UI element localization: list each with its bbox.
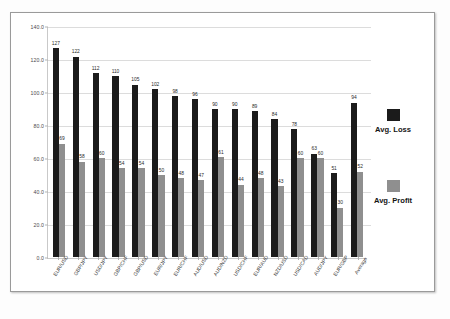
x-tick-mark	[198, 257, 199, 260]
x-axis-cell: USD/JPY	[88, 261, 108, 309]
bar-avg-profit: 61	[218, 157, 224, 257]
bar-group: 5130	[327, 27, 347, 257]
bar-avg-profit: 48	[178, 178, 184, 257]
bar-group: 8443	[268, 27, 288, 257]
legend-label-avg-profit: Avg. Profit	[362, 196, 424, 205]
bar-avg-profit: 43	[278, 186, 284, 257]
bar-value-label: 44	[238, 178, 243, 183]
y-tick-mark	[45, 60, 48, 61]
x-tick-mark	[338, 257, 339, 260]
x-axis-cell: AUD/USD	[188, 261, 208, 309]
x-tick-mark	[118, 257, 119, 260]
bar-value-label: 47	[198, 174, 203, 179]
y-tick-mark	[45, 126, 48, 127]
bar-avg-profit: 30	[337, 208, 343, 257]
bar-value-label: 43	[278, 180, 283, 185]
y-tick-mark	[45, 192, 48, 193]
x-axis-labels: EUR/USDGBP/JPYUSD/JPYGBP/CHFGBP/USDEUR/J…	[48, 261, 368, 309]
x-axis-cell: GBP/USD	[128, 261, 148, 309]
bar-value-label: 96	[192, 93, 197, 98]
bar-value-label: 54	[119, 162, 124, 167]
bar-group: 9647	[188, 27, 208, 257]
bar-avg-profit: 60	[297, 158, 303, 257]
legend-item-avg-profit: Avg. Profit	[362, 180, 424, 205]
x-axis-cell: Average	[348, 261, 368, 309]
chart-frame: 0.020.040.060.080.0100.0120.0140.0 12769…	[10, 12, 435, 292]
bar-value-label: 60	[99, 152, 104, 157]
legend-item-avg-loss: Avg. Loss	[362, 109, 424, 134]
bar-avg-profit: 60	[317, 158, 323, 257]
x-tick-mark	[178, 257, 179, 260]
bar-value-label: 60	[318, 152, 323, 157]
x-axis-cell: EUR/JPY	[148, 261, 168, 309]
bar-value-label: 58	[79, 155, 84, 160]
bar-value-label: 48	[179, 172, 184, 177]
x-tick-mark	[238, 257, 239, 260]
bar-value-label: 90	[212, 103, 217, 108]
bar-groups: 1276912258112601105410554102509848964790…	[49, 27, 367, 257]
plot-region: 0.020.040.060.080.0100.0120.0140.0 12769…	[47, 27, 367, 259]
bar-value-label: 78	[292, 123, 297, 128]
bar-group: 9044	[228, 27, 248, 257]
bar-value-label: 60	[298, 152, 303, 157]
x-tick-mark	[98, 257, 99, 260]
bar-avg-profit: 47	[198, 180, 204, 257]
bar-value-label: 102	[151, 83, 159, 88]
bar-group: 9848	[168, 27, 188, 257]
y-tick-mark	[45, 27, 48, 28]
bar-value-label: 122	[72, 50, 80, 55]
bar-value-label: 54	[139, 162, 144, 167]
bar-avg-profit: 48	[258, 178, 264, 257]
bar-value-label: 105	[131, 78, 139, 83]
bar-group: 7860	[288, 27, 308, 257]
x-axis-cell: EUR/USD	[48, 261, 68, 309]
x-axis-cell: USD/CHF	[228, 261, 248, 309]
bar-avg-profit: 69	[59, 144, 65, 257]
bar-avg-profit: 54	[119, 168, 125, 257]
bar-avg-profit: 50	[158, 175, 164, 257]
x-tick-mark	[318, 257, 319, 260]
x-tick-mark	[58, 257, 59, 260]
chart-screenshot: 0.020.040.060.080.0100.0120.0140.0 12769…	[0, 0, 450, 319]
bar-value-label: 98	[172, 90, 177, 95]
x-axis-cell: GBP/JPY	[68, 261, 88, 309]
legend-label-avg-loss: Avg. Loss	[362, 125, 424, 134]
x-tick-mark	[358, 257, 359, 260]
bar-value-label: 127	[52, 42, 60, 47]
x-axis-cell: AUD/NZD	[208, 261, 228, 309]
legend-swatch-avg-loss	[387, 109, 400, 121]
x-axis-cell: USD/CAD	[288, 261, 308, 309]
bar-value-label: 51	[331, 167, 336, 172]
bar-avg-profit: 60	[99, 158, 105, 257]
bar-group: 6360	[307, 27, 327, 257]
y-tick-mark	[45, 159, 48, 160]
bar-group: 11054	[109, 27, 129, 257]
bar-value-label: 110	[112, 70, 120, 75]
bar-value-label: 90	[232, 103, 237, 108]
bar-value-label: 112	[92, 67, 100, 72]
chart-legend: Avg. Loss Avg. Profit	[362, 109, 424, 251]
x-tick-mark	[138, 257, 139, 260]
bar-value-label: 61	[218, 151, 223, 156]
x-axis-cell: NZD/USD	[268, 261, 288, 309]
bar-value-label: 50	[159, 169, 164, 174]
bar-group: 12258	[69, 27, 89, 257]
bar-value-label: 94	[351, 96, 356, 101]
bar-value-label: 69	[59, 137, 64, 142]
legend-swatch-avg-profit	[387, 180, 400, 192]
bar-value-label: 30	[338, 201, 343, 206]
bar-avg-profit: 54	[138, 168, 144, 257]
x-axis-cell: GBP/CHF	[108, 261, 128, 309]
bar-group: 11260	[89, 27, 109, 257]
x-tick-mark	[298, 257, 299, 260]
bar-avg-profit: 58	[79, 162, 85, 257]
x-tick-mark	[218, 257, 219, 260]
x-axis-cell: AUD/JPY	[308, 261, 328, 309]
bar-group: 10554	[129, 27, 149, 257]
y-tick-mark	[45, 258, 48, 259]
x-axis-cell: EUR/GBP	[328, 261, 348, 309]
plot-area: 0.020.040.060.080.0100.0120.0140.0 12769…	[47, 27, 367, 259]
x-tick-mark	[158, 257, 159, 260]
y-tick-mark	[45, 93, 48, 94]
bar-group: 10250	[148, 27, 168, 257]
